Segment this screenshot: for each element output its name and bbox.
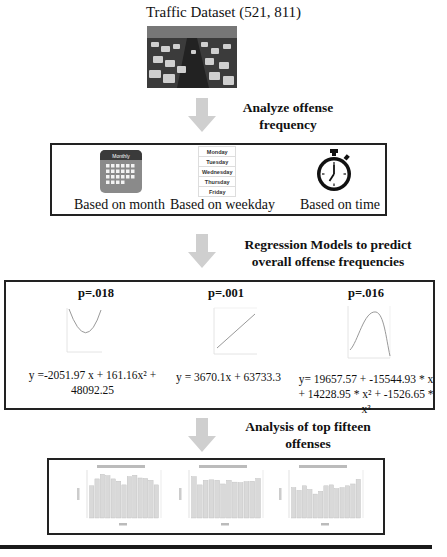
regression-models-box: p=.018 y =-2051.97 x + 161.16x² + 48092.… [4, 280, 435, 410]
equation-model-2: y = 3670.1x + 63733.3 [166, 370, 291, 385]
step-label-analyze: Analyze offense frequency [228, 99, 348, 133]
weekday-list-icon: Monday Tuesday Wednesday Thursday Friday [198, 146, 236, 197]
bar-chart-2 [177, 464, 267, 532]
svg-text:Monthly: Monthly [112, 153, 130, 159]
down-arrow-icon [188, 418, 216, 456]
diagram-title: Traffic Dataset (521, 811) [0, 4, 447, 21]
equation-model-1: y =-2051.97 x + 161.16x² + 48092.25 [10, 368, 175, 398]
step-label-regression: Regression Models to predict overall off… [228, 236, 428, 270]
stopwatch-icon [314, 149, 354, 193]
frequency-analysis-box: Monthly Based on month Monday Tuesday We… [50, 143, 387, 216]
bar-chart-3 [277, 464, 367, 532]
p-value-model-3: p=.016 [326, 286, 406, 301]
equation-model-3: y= 19657.57 + -15544.93 * x + 14228.95 *… [296, 372, 436, 417]
caption-time: Based on time [290, 197, 390, 213]
traffic-photo [147, 26, 237, 88]
bar-chart-1 [75, 464, 165, 532]
down-arrow-icon [188, 98, 216, 136]
step-label-top-fifteen: Analysis of top fifteen offenses [228, 418, 388, 452]
top-offenses-box [47, 458, 385, 535]
p-value-model-2: p=.001 [186, 286, 266, 301]
quadratic-fit-plot [64, 306, 104, 362]
down-arrow-icon [188, 234, 216, 272]
divider-rule [0, 545, 432, 549]
linear-fit-plot [211, 306, 259, 366]
cubic-fit-plot [344, 304, 392, 368]
calendar-icon: Monthly [100, 150, 142, 193]
p-value-model-1: p=.018 [56, 286, 136, 301]
caption-weekday: Based on weekday [160, 197, 285, 213]
